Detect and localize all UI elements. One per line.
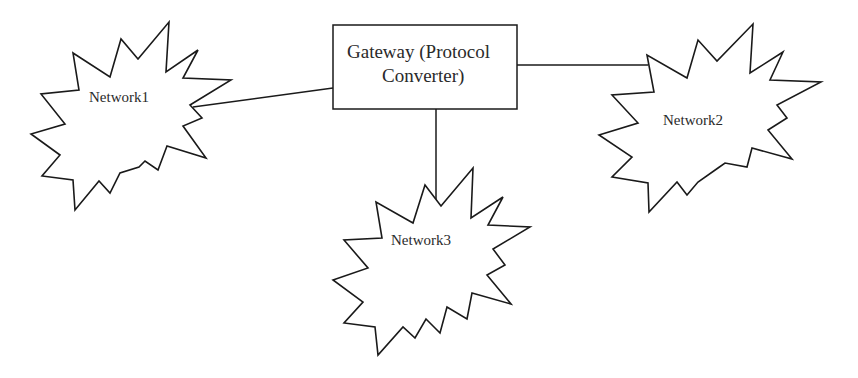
network2-node[interactable]: Network2: [599, 24, 821, 212]
network3-node[interactable]: Network3: [333, 168, 530, 355]
network-diagram: Network1 Network2 Network3 Gateway (Prot…: [0, 0, 858, 378]
network1-label: Network1: [89, 89, 149, 105]
network2-label: Network2: [663, 112, 723, 128]
gateway-label-line2: Converter): [382, 65, 464, 87]
gateway-label-line1: Gateway (Protocol: [347, 41, 490, 63]
gateway-node[interactable]: Gateway (Protocol Converter): [333, 25, 517, 109]
network1-node[interactable]: Network1: [31, 22, 231, 210]
network1-starburst-shape: [31, 22, 231, 210]
network3-starburst-shape: [333, 168, 530, 355]
network3-label: Network3: [391, 232, 451, 248]
